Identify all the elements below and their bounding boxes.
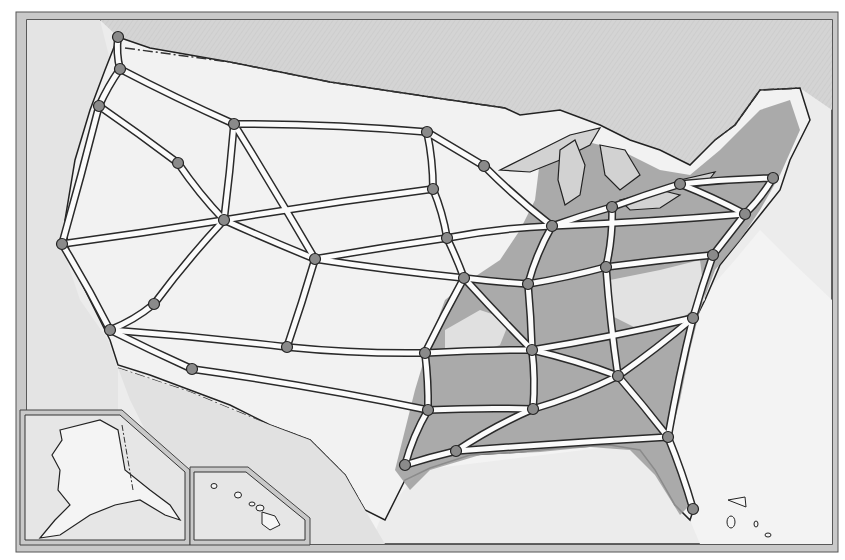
- city-node-bellingham: [113, 32, 124, 43]
- city-node-phoenix-n: [187, 364, 198, 375]
- city-node-miami: [688, 504, 699, 515]
- city-node-kc: [459, 273, 470, 284]
- city-node-neworleans: [451, 446, 462, 457]
- city-node-sioux: [428, 184, 439, 195]
- road: [532, 350, 534, 409]
- city-node-okc: [420, 348, 431, 359]
- city-node-chicago: [547, 221, 558, 232]
- city-node-portland: [94, 101, 105, 112]
- city-node-lasvegas: [149, 299, 160, 310]
- city-node-billings: [229, 119, 240, 130]
- us-highway-map: [0, 0, 845, 560]
- city-node-cincy: [601, 262, 612, 273]
- city-node-charlotte: [688, 313, 699, 324]
- city-node-sf: [57, 239, 68, 250]
- city-node-jacksonville: [663, 432, 674, 443]
- city-node-nyc: [740, 209, 751, 220]
- city-node-la: [105, 325, 116, 336]
- road: [428, 408, 533, 410]
- city-node-dc: [708, 250, 719, 261]
- city-node-indy: [523, 279, 534, 290]
- city-node-memphis: [527, 345, 538, 356]
- city-node-atlanta: [613, 371, 624, 382]
- city-node-buffalo: [675, 179, 686, 190]
- city-node-detroit: [607, 202, 618, 213]
- city-node-spokane-w: [173, 158, 184, 169]
- city-node-fargo: [422, 127, 433, 138]
- city-node-albuquerque: [282, 342, 293, 353]
- city-node-houston: [400, 460, 411, 471]
- city-node-reno: [219, 215, 230, 226]
- city-node-dallas: [423, 405, 434, 416]
- city-node-cheyenne: [310, 254, 321, 265]
- city-node-duluth: [479, 161, 490, 172]
- city-node-desmoines: [442, 233, 453, 244]
- city-node-jackson: [528, 404, 539, 415]
- city-node-boston: [768, 173, 779, 184]
- city-node-seattle: [115, 64, 126, 75]
